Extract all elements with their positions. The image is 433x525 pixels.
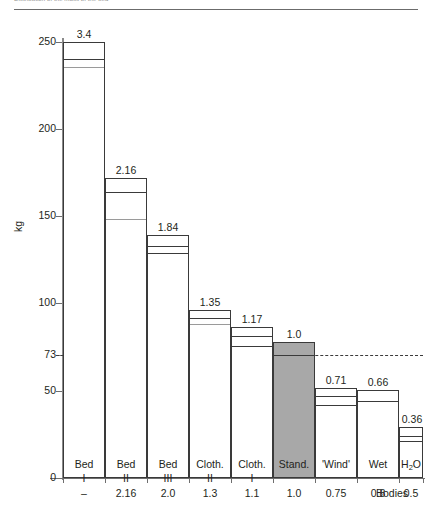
bar-segment-line [316, 405, 356, 406]
bar-segment-line [148, 253, 188, 254]
bar-bed-ii [105, 178, 147, 478]
x-axis-title: Bodies [376, 487, 408, 499]
bar-segment-line [400, 441, 422, 442]
bodies-ratio-bed-iii: 2.0 [147, 487, 189, 499]
bar-segment-line [106, 192, 146, 193]
category-label-line1: Cloth. [231, 458, 273, 470]
y-tick-label-250: 250 [10, 35, 56, 47]
bar-value-wind: 0.71 [315, 374, 357, 386]
y-tick-label-100: 100 [10, 296, 56, 308]
x-tick [315, 478, 316, 483]
bar-segment-line [232, 336, 272, 337]
bar-segment-line [232, 346, 272, 347]
x-tick [399, 478, 400, 483]
y-tick-label-150: 150 [10, 209, 56, 221]
category-label-line1: 'Wind' [315, 458, 357, 470]
bar-bed-i [63, 42, 105, 478]
y-tick-0 [56, 478, 62, 479]
category-cell-bed-iii: Bed III [147, 444, 189, 478]
category-label-line1: H2O [391, 458, 431, 472]
category-label-line2: II [189, 472, 231, 484]
bar-chart: 250 200 150 100 73 50 0 kg 3.4 2.16 1.84… [0, 0, 433, 525]
bar-value-wet: 0.66 [357, 376, 399, 388]
y-tick-150 [56, 216, 62, 217]
bodies-ratio-cloth-i: 1.1 [231, 487, 273, 499]
category-label-line1: Stand. [273, 458, 315, 470]
bar-value-cloth-i: 1.17 [231, 313, 273, 325]
y-tick-label-50: 50 [10, 384, 56, 396]
y-axis-title: kg [12, 221, 24, 232]
bar-segment-line [148, 246, 188, 247]
y-tick-label-200: 200 [10, 122, 56, 134]
bar-segment-line [400, 436, 422, 437]
category-cell-stand: Stand. [273, 444, 315, 478]
x-tick [423, 478, 424, 483]
x-tick [357, 478, 358, 483]
category-cell-h2o: H2O [391, 444, 431, 478]
bodies-ratio-stand: 1.0 [273, 487, 315, 499]
y-tick-label-0: 0 [10, 471, 56, 483]
category-label-line2: I [231, 472, 273, 484]
bodies-ratio-bed-ii: 2.16 [105, 487, 147, 499]
x-tick [147, 478, 148, 483]
category-cell-cloth-i: Cloth. I [231, 444, 273, 478]
x-tick [63, 478, 64, 483]
bar-value-bed-iii: 1.84 [147, 221, 189, 233]
category-cell-bed-i: Bed I [63, 444, 105, 478]
bodies-ratio-bed-i: – [63, 487, 105, 499]
x-tick [231, 478, 232, 483]
bar-segment-line [274, 355, 314, 356]
x-tick [105, 478, 106, 483]
bar-segment-line [64, 67, 104, 68]
bar-bed-iii [147, 235, 189, 478]
bar-value-bed-i: 3.4 [63, 28, 105, 40]
x-tick [273, 478, 274, 483]
bar-value-h2o: 0.36 [391, 413, 433, 425]
y-tick-label-73: 73 [10, 348, 56, 360]
category-cell-bed-ii: Bed II [105, 444, 147, 478]
category-label-line2: I [63, 472, 105, 484]
bar-value-cloth-ii: 1.35 [189, 296, 231, 308]
category-label-line1: Bed [147, 458, 189, 470]
bar-segment-line [106, 219, 146, 220]
category-cell-cloth-ii: Cloth. II [189, 444, 231, 478]
category-label-line2: III [147, 472, 189, 484]
y-tick-200 [56, 129, 62, 130]
bar-value-stand: 1.0 [273, 328, 315, 340]
bodies-ratio-cloth-ii: 1.3 [189, 487, 231, 499]
y-tick-100 [56, 303, 62, 304]
category-cell-wind: 'Wind' [315, 444, 357, 478]
y-tick-50 [56, 391, 62, 392]
bar-segment-line [64, 59, 104, 60]
bodies-ratio-wind: 0.75 [315, 487, 357, 499]
category-label-line2: II [105, 472, 147, 484]
bar-segment-line [316, 396, 356, 397]
bar-value-bed-ii: 2.16 [105, 164, 147, 176]
x-tick [189, 478, 190, 483]
bar-segment-line [358, 401, 398, 402]
category-label-line1: Cloth. [189, 458, 231, 470]
category-label-line1: Bed [105, 458, 147, 470]
category-label-line1: Bed [63, 458, 105, 470]
bar-segment-line [190, 318, 230, 319]
y-tick-250 [56, 42, 62, 43]
bar-segment-line [190, 324, 230, 325]
